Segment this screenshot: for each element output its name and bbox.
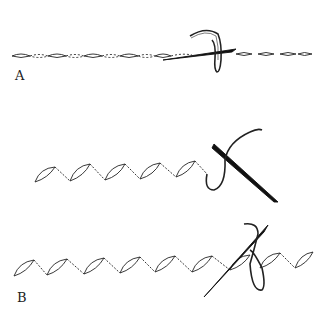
panel-b-zigzag-row-1 (35, 161, 207, 182)
panel-a-needle (163, 49, 236, 60)
panel-a-thread (190, 30, 221, 72)
stitch-illustration: A B (0, 0, 330, 326)
panel-b-needle-1 (212, 144, 278, 202)
stitch-drawing (0, 0, 330, 326)
panel-b-zigzag-row-2 (14, 252, 313, 276)
panel-label-a: A (15, 68, 24, 83)
panel-a-stitch-line (12, 53, 312, 58)
panel-label-b: B (17, 290, 27, 305)
